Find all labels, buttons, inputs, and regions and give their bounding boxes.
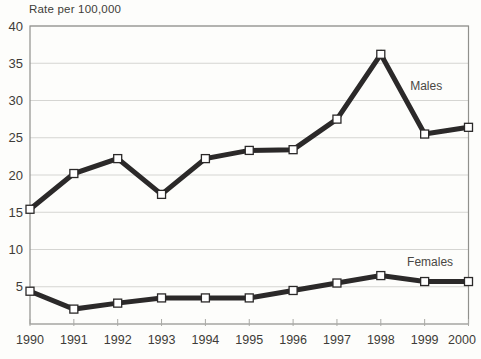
y-tick-label: 30 [9, 93, 23, 108]
females-marker [26, 287, 34, 295]
males-marker [158, 190, 166, 198]
females-marker [377, 272, 385, 280]
males-marker [333, 115, 341, 123]
x-tick-label: 1998 [367, 333, 395, 347]
y-tick-label: 25 [9, 130, 23, 145]
y-tick-label: 5 [16, 279, 23, 294]
females-line [30, 276, 469, 310]
females-marker [289, 286, 297, 294]
females-marker [333, 279, 341, 287]
chart: Rate per 100,000 51015202530354019901991… [0, 0, 481, 359]
males-marker [377, 50, 385, 58]
males-marker [70, 170, 78, 178]
y-tick-label: 20 [9, 168, 23, 183]
males-marker [114, 155, 122, 163]
males-marker [245, 146, 253, 154]
x-tick-label: 2000 [448, 333, 476, 347]
x-tick-label: 1991 [60, 333, 88, 347]
x-tick-label: 1994 [191, 333, 219, 347]
females-marker [421, 278, 429, 286]
males-marker [26, 205, 34, 213]
plot-area: 5101520253035401990199119921993199419951… [0, 0, 481, 359]
females-series-label: Females [407, 255, 453, 269]
y-tick-label: 10 [9, 242, 23, 257]
males-marker [465, 123, 473, 131]
females-marker [465, 278, 473, 286]
x-tick-label: 1990 [16, 333, 44, 347]
x-tick-label: 1993 [148, 333, 176, 347]
x-tick-label: 1999 [411, 333, 439, 347]
males-marker [421, 130, 429, 138]
females-marker [70, 305, 78, 313]
females-marker [114, 299, 122, 307]
males-marker [201, 155, 209, 163]
x-tick-label: 1997 [323, 333, 351, 347]
x-tick-label: 1996 [279, 333, 307, 347]
males-line [30, 54, 469, 209]
females-marker [245, 294, 253, 302]
y-tick-label: 35 [9, 56, 23, 71]
y-tick-label: 40 [9, 19, 23, 34]
y-tick-label: 15 [9, 205, 23, 220]
males-marker [289, 146, 297, 154]
x-tick-label: 1992 [104, 333, 132, 347]
females-marker [158, 294, 166, 302]
females-marker [201, 294, 209, 302]
males-series-label: Males [410, 79, 442, 93]
x-tick-label: 1995 [235, 333, 263, 347]
